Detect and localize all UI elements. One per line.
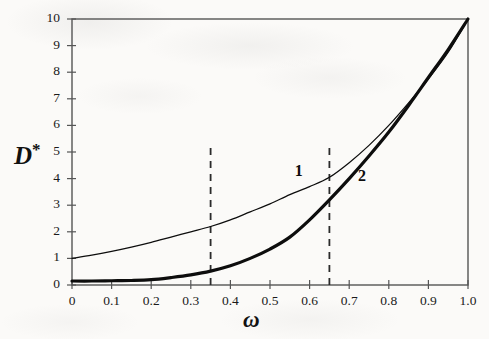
x-tick-label-0.6: 0.6 [290, 293, 330, 309]
data-curve-2 [72, 19, 468, 281]
y-tick-label-10: 10 [34, 10, 60, 26]
y-tick-label-6: 6 [34, 116, 60, 132]
y-tick-label-0: 0 [34, 276, 60, 292]
y-tick-label-7: 7 [34, 90, 60, 106]
y-tick-label-8: 8 [34, 63, 60, 79]
y-tick-label-5: 5 [34, 143, 60, 159]
plot-frame [72, 19, 468, 285]
x-tick-label-0.3: 0.3 [171, 293, 211, 309]
chart-figure: D* ω 012345678910 00.10.20.30.40.50.60.7… [0, 0, 489, 339]
y-tick-label-1: 1 [34, 249, 60, 265]
y-tick-label-9: 9 [34, 37, 60, 53]
curve-label-1: 1 [295, 162, 303, 180]
x-tick-label-0.5: 0.5 [250, 293, 290, 309]
annotation-dashed-lines [211, 145, 330, 285]
y-tick-label-2: 2 [34, 223, 60, 239]
x-tick-label-0.8: 0.8 [369, 293, 409, 309]
y-tick-label-3: 3 [34, 196, 60, 212]
x-tick-label-1.0: 1.0 [448, 293, 488, 309]
x-tick-label-0.7: 0.7 [329, 293, 369, 309]
x-tick-label-0: 0 [52, 293, 92, 309]
x-tick-label-0.9: 0.9 [408, 293, 448, 309]
x-tick-label-0.1: 0.1 [92, 293, 132, 309]
plot-area [0, 0, 489, 339]
y-axis-title-text: D [14, 142, 32, 169]
x-tick-label-0.4: 0.4 [210, 293, 250, 309]
y-tick-label-4: 4 [34, 170, 60, 186]
data-curve-1 [72, 19, 468, 258]
curve-label-2: 2 [358, 167, 366, 185]
x-axis-title: ω [243, 307, 260, 333]
x-tick-label-0.2: 0.2 [131, 293, 171, 309]
